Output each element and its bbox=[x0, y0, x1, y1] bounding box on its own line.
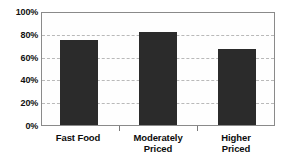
x-axis-label-higher-priced: Higher Priced bbox=[197, 132, 275, 154]
y-axis-tick-label: 100% bbox=[0, 8, 38, 17]
x-axis-label-line: Fast Food bbox=[39, 132, 117, 143]
x-axis-label-line: Moderately bbox=[119, 132, 197, 143]
x-axis-tick bbox=[197, 126, 198, 131]
y-axis-tick-label: 40% bbox=[0, 76, 38, 85]
y-axis-tick-label: 80% bbox=[0, 30, 38, 39]
bar-fast-food bbox=[60, 40, 98, 125]
x-axis-label-line: Priced bbox=[197, 143, 275, 154]
bar-chart: 100% 80% 60% 40% 20% 0% Fast Food Modera… bbox=[0, 0, 287, 160]
y-axis-tick-label: 20% bbox=[0, 99, 38, 108]
y-axis: 100% 80% 60% 40% 20% 0% bbox=[0, 0, 38, 160]
bar-higher-priced bbox=[218, 49, 256, 125]
plot-area bbox=[41, 12, 275, 126]
y-axis-tick-label: 60% bbox=[0, 53, 38, 62]
y-axis-tick-label: 0% bbox=[0, 122, 38, 131]
x-axis-label-line: Priced bbox=[119, 143, 197, 154]
x-axis-label-fast-food: Fast Food bbox=[39, 132, 117, 143]
x-axis-label-line: Higher bbox=[197, 132, 275, 143]
bar-moderately-priced bbox=[139, 32, 177, 125]
x-axis-tick bbox=[119, 126, 120, 131]
x-axis-label-moderately-priced: Moderately Priced bbox=[119, 132, 197, 154]
